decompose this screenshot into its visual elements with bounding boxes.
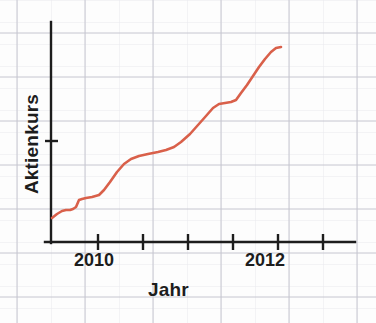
- y-axis: [45, 22, 58, 243]
- x-axis: [45, 234, 355, 250]
- plot-area: [0, 0, 376, 323]
- chart-figure: Aktienkurs Jahr 2010 2012: [0, 0, 376, 323]
- series-line-aktienkurs: [52, 47, 281, 218]
- x-tick-label-2012: 2012: [245, 250, 285, 271]
- x-axis-label: Jahr: [148, 279, 189, 301]
- x-tick-label-2010: 2010: [74, 250, 114, 271]
- y-axis-label: Aktienkurs: [21, 89, 43, 199]
